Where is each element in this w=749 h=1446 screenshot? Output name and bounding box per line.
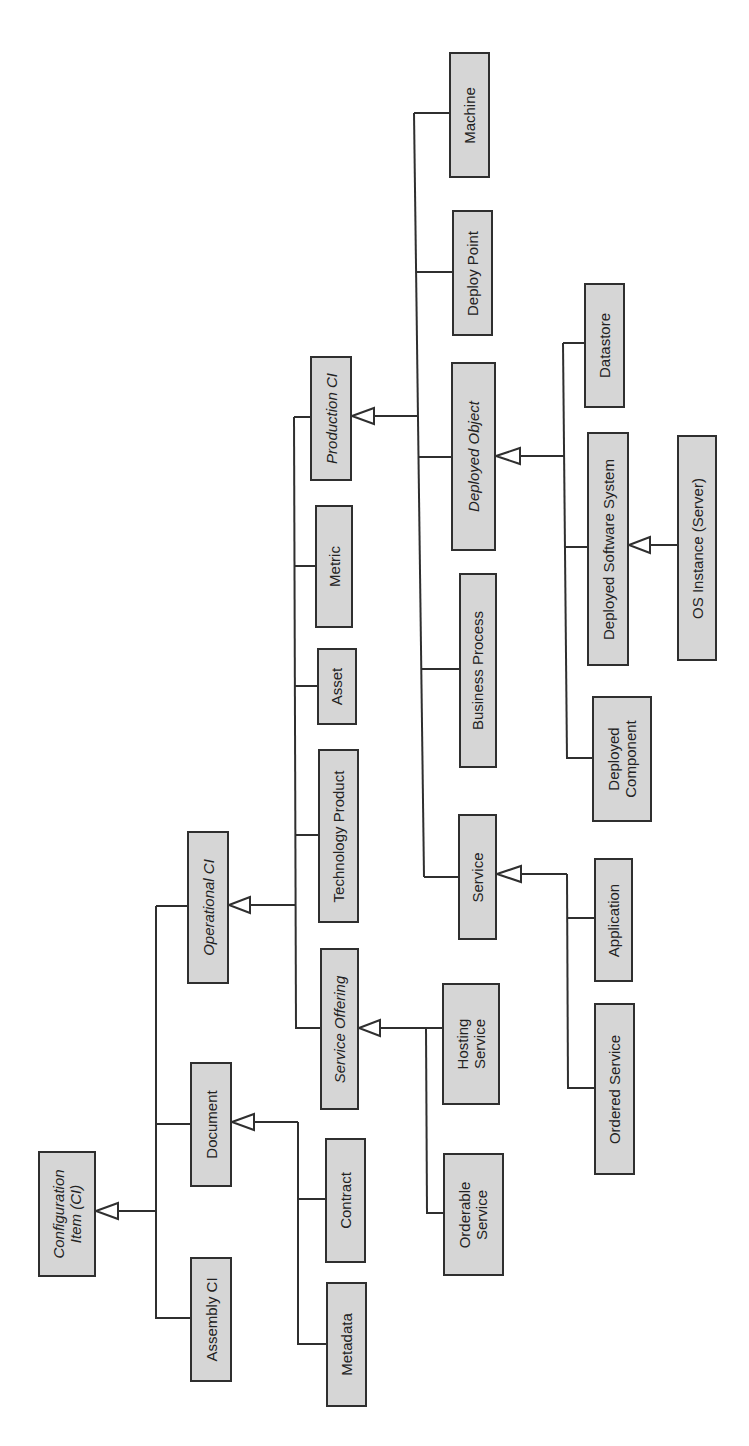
node-label: Machine	[461, 87, 478, 144]
node-operational-ci: Operational CI	[187, 831, 229, 984]
generalization-arrow-icon	[497, 866, 521, 882]
node-deploy-point: Deploy Point	[452, 210, 493, 336]
node-application: Application	[594, 858, 633, 982]
node-label: Asset	[329, 668, 346, 706]
node-document: Document	[190, 1062, 232, 1187]
node-production-ci: Production CI	[310, 356, 352, 481]
node-metric: Metric	[315, 505, 353, 628]
node-label: Application	[605, 883, 622, 956]
node-deployed-object: Deployed Object	[451, 362, 496, 551]
generalization-arrow-icon	[96, 1203, 118, 1219]
node-label: Assembly CI	[203, 1277, 220, 1361]
node-label: Orderable Service	[457, 1181, 491, 1248]
node-os-instance-server: OS Instance (Server)	[677, 435, 717, 661]
node-label: Operational CI	[200, 859, 217, 956]
node-asset: Asset	[317, 648, 357, 725]
node-label: Deployed Software System	[600, 459, 617, 640]
node-label: Production CI	[323, 373, 340, 464]
node-deployed-component: Deployed Component	[592, 696, 652, 822]
node-label: OS Instance (Server)	[689, 478, 706, 619]
node-orderable-service: Orderable Service	[443, 1153, 504, 1276]
node-label: Hosting Service	[454, 1019, 488, 1070]
node-ordered-service: Ordered Service	[594, 1003, 635, 1175]
node-contract: Contract	[325, 1138, 366, 1263]
node-configuration-item: Configuration Item (CI)	[38, 1151, 96, 1277]
node-deployed-software-system: Deployed Software System	[587, 432, 629, 666]
node-label: Service	[469, 852, 486, 902]
node-machine: Machine	[449, 52, 490, 178]
node-assembly-ci: Assembly CI	[190, 1257, 232, 1382]
node-label: Datastore	[596, 313, 613, 378]
node-label: Ordered Service	[606, 1034, 623, 1143]
node-hosting-service: Hosting Service	[442, 983, 500, 1105]
node-label: Deployed Object	[465, 401, 482, 512]
ci-class-hierarchy-diagram: Configuration Item (CI) Assembly CI Docu…	[0, 0, 749, 1446]
node-metadata: Metadata	[326, 1282, 367, 1407]
node-service: Service	[458, 814, 497, 940]
node-label: Service Offering	[331, 975, 348, 1083]
node-label: Configuration Item (CI)	[50, 1169, 84, 1258]
generalization-arrow-icon	[359, 1020, 380, 1036]
generalization-arrow-icon	[232, 1114, 254, 1130]
generalization-arrow-icon	[352, 408, 374, 424]
node-technology-product: Technology Product	[318, 749, 359, 923]
generalization-arrow-icon	[629, 537, 650, 553]
node-business-process: Business Process	[459, 573, 497, 768]
node-datastore: Datastore	[584, 283, 625, 408]
node-label: Deployed Component	[605, 720, 639, 798]
node-label: Metric	[326, 546, 343, 587]
node-service-offering: Service Offering	[320, 948, 359, 1110]
node-label: Document	[203, 1090, 220, 1158]
node-label: Contract	[337, 1172, 354, 1229]
node-label: Business Process	[470, 611, 487, 730]
generalization-arrow-icon	[496, 448, 520, 464]
node-label: Deploy Point	[464, 230, 481, 315]
node-label: Metadata	[338, 1313, 355, 1376]
node-label: Technology Product	[330, 770, 347, 902]
generalization-arrow-icon	[229, 897, 250, 913]
